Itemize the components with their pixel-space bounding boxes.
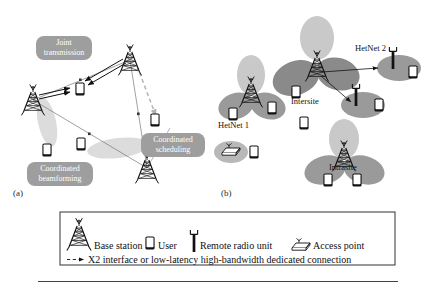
cell-intrasite	[301, 119, 388, 189]
panel-b-caption: (b)	[221, 188, 232, 198]
user-device-a3	[76, 137, 85, 150]
user-device-a2	[42, 143, 51, 156]
user-device-b1	[228, 107, 237, 120]
panel-a-caption: (a)	[13, 188, 23, 198]
label-joint-transmission: Joint transmission	[36, 36, 92, 60]
user-device-b9	[352, 173, 361, 186]
label-joint-transmission-line2: transmission	[44, 48, 84, 57]
label-intrasite: Intrasite	[329, 162, 357, 172]
legend-box: Base station User Remote radio unit Acce…	[60, 212, 395, 265]
user-device-b8	[323, 173, 332, 186]
bottom-rule	[38, 281, 398, 282]
user-device-b2	[267, 101, 276, 114]
user-device-b7	[374, 98, 383, 111]
mesh-ticks	[79, 79, 140, 136]
legend-label-connection-note: X2 interface or low-latency high-bandwid…	[88, 254, 351, 265]
label-hetnet-2: HetNet 2	[355, 43, 386, 53]
legend-label-remote-radio-unit: Remote radio unit	[200, 240, 272, 251]
label-hetnet-1: HetNet 1	[218, 120, 249, 130]
beamforming-lobe-left	[33, 96, 61, 149]
beamforming-lobe-center	[86, 134, 150, 161]
label-coordinated-beamforming-line1: Coordinated	[40, 164, 80, 173]
user-device-b3	[249, 145, 258, 158]
label-intersite: Intersite	[291, 96, 319, 106]
user-device-a1	[75, 82, 84, 95]
legend-label-user: User	[158, 240, 178, 251]
label-coordinated-beamforming: Coordinated beamforming	[27, 162, 93, 186]
user-device-b6	[408, 65, 417, 78]
label-coordinated-beamforming-line2: beamforming	[38, 174, 81, 183]
label-joint-transmission-line1: Joint	[56, 38, 72, 47]
legend-user-device-icon	[145, 236, 154, 249]
legend-label-access-point: Access point	[313, 240, 365, 251]
panel-a: Joint transmission Coordinated beamformi…	[21, 36, 205, 186]
user-device-b5	[299, 116, 308, 129]
label-coordinated-scheduling-line2: scheduling	[156, 145, 191, 154]
legend-label-base-station: Base station	[94, 240, 143, 251]
access-point-cell-b	[214, 141, 259, 163]
figure-root: Joint transmission Coordinated beamformi…	[0, 0, 435, 292]
panel-b: HetNet 1 HetNet 2 Intersite Intrasite	[214, 16, 421, 189]
label-coordinated-scheduling: Coordinated scheduling	[141, 133, 205, 157]
network-diagram-svg: Joint transmission Coordinated beamformi…	[0, 0, 435, 292]
label-coordinated-scheduling-line1: Coordinated	[153, 135, 193, 144]
user-device-a4	[150, 113, 159, 126]
